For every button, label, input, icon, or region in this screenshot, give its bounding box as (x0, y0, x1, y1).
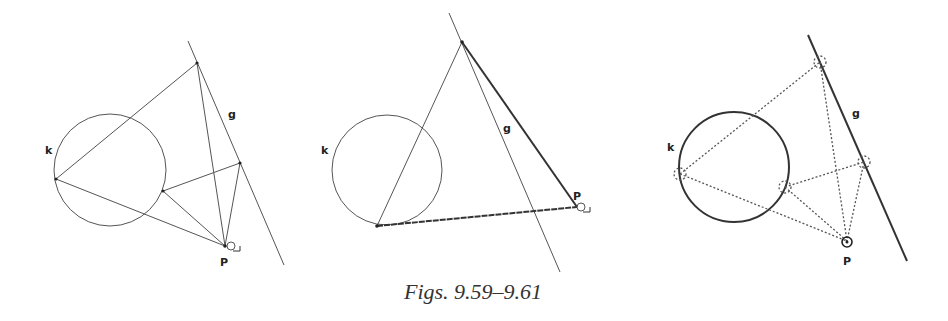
figure-9-59 (54, 41, 284, 265)
label-p-2: P (573, 190, 581, 203)
label-k-2: k (321, 144, 329, 157)
circle-k (54, 114, 166, 226)
line-g (808, 35, 907, 261)
label-k-3: k (667, 141, 675, 154)
figures-canvas: k g P k g P (0, 0, 948, 321)
figure-9-60 (332, 13, 590, 272)
hand-cursor-icon (227, 242, 240, 251)
label-g-2: g (503, 122, 511, 135)
figure-9-61 (674, 35, 907, 261)
line-g (188, 41, 284, 265)
line-g (449, 13, 560, 272)
circle-k (332, 115, 442, 225)
label-g-1: g (228, 108, 236, 121)
label-p-1: P (220, 256, 228, 269)
figure-caption: Figs. 9.59–9.61 (403, 279, 542, 304)
circle-k (679, 112, 789, 222)
label-p-3: P (843, 255, 851, 268)
label-k-1: k (45, 144, 53, 157)
label-g-3: g (852, 107, 860, 120)
hand-cursor-icon (577, 203, 590, 212)
